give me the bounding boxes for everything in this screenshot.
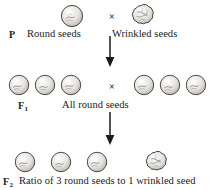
seed-wrinkled-parent (130, 3, 156, 28)
seed-round-f2-3 (86, 151, 108, 173)
arrow-p-to-f1 (104, 36, 116, 68)
f1-caption: All round seeds (62, 100, 129, 111)
generation-label-p-text: P (9, 29, 15, 40)
generation-label-f2-text: F (3, 176, 9, 187)
seed-round-f1-3 (60, 74, 82, 96)
seed-round-f1-2 (34, 74, 56, 96)
generation-label-p: P (9, 30, 15, 40)
cross-symbol-f1: × (109, 82, 115, 92)
seed-round-parent (60, 4, 84, 28)
generation-label-f1-sub: 1 (25, 105, 29, 113)
seed-round-f1-1 (8, 74, 30, 96)
seed-round-f1-4 (133, 74, 155, 96)
f2-caption: Ratio of 3 round seeds to 1 wrinkled see… (19, 176, 195, 187)
generation-label-f2-sub: 2 (10, 181, 14, 189)
parent-right-caption: Wrinkled seeds (112, 29, 177, 40)
seed-wrinkled-f2-1 (144, 150, 169, 174)
seed-round-f1-6 (185, 74, 207, 96)
parent-left-caption: Round seeds (27, 29, 81, 40)
genetics-cross-diagram: × P Round seeds Wrinkled seeds (0, 0, 214, 190)
seed-round-f1-5 (159, 74, 181, 96)
generation-label-f2: F2 (3, 177, 13, 187)
seed-round-f2-2 (50, 151, 72, 173)
generation-label-f1-text: F (18, 100, 24, 111)
cross-symbol-parental: × (109, 12, 115, 22)
generation-label-f1: F1 (18, 101, 28, 111)
arrow-f1-to-f2 (104, 112, 116, 146)
seed-round-f2-1 (14, 151, 36, 173)
